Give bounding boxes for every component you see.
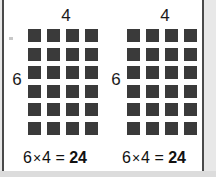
multiplication-sign-icon: × [131,150,141,166]
square-array-right [127,29,197,135]
column-count-label-left: 4 [28,6,104,26]
array-square [165,122,178,135]
equation-left-factor: 6 [122,149,131,166]
equation-right-factor: 4 [42,149,51,166]
array-square [28,122,41,135]
array-square [184,48,197,61]
array-square [146,66,159,79]
array-square [85,103,98,116]
array-square [85,122,98,135]
array-square [127,48,140,61]
equals-sign: = [154,149,163,166]
array-square [85,29,98,42]
square-array-left [28,29,98,135]
equals-sign: = [55,149,64,166]
array-square [127,85,140,98]
equation-right: 6×4 = 24 [107,148,201,168]
array-square [165,103,178,116]
array-square [127,66,140,79]
array-square [47,122,60,135]
array-square [127,103,140,116]
array-square [165,66,178,79]
equation-product: 24 [168,149,186,166]
array-square [165,85,178,98]
array-square [47,85,60,98]
multiplication-group-left: 4 6 [4,0,103,171]
array-square [184,85,197,98]
multiplication-sign-icon: × [32,150,42,166]
array-square [85,85,98,98]
array-square [66,103,79,116]
array-square [66,85,79,98]
worksheet-image: 4 6 [0,0,216,177]
array-square [85,48,98,61]
bottom-gray-strip [0,171,216,177]
row-count-label-left: 6 [8,70,26,90]
array-square [146,85,159,98]
array-square [28,66,41,79]
array-square [66,29,79,42]
array-square [28,48,41,61]
array-square [165,48,178,61]
array-square [127,122,140,135]
array-square [165,29,178,42]
array-square [146,29,159,42]
array-square [66,66,79,79]
equation-left-factor: 6 [23,149,32,166]
column-count-label-right: 4 [127,6,203,26]
row-count-label-right: 6 [107,70,125,90]
array-square [66,48,79,61]
array-square [47,29,60,42]
equation-product: 24 [69,149,87,166]
array-square [28,29,41,42]
array-square [146,122,159,135]
array-square [184,103,197,116]
array-square [47,48,60,61]
array-square [28,103,41,116]
array-square [184,122,197,135]
multiplication-group-right: 4 6 [103,0,203,171]
array-square [146,48,159,61]
array-square [184,66,197,79]
equation-left: 6×4 = 24 [8,148,102,168]
array-square [85,66,98,79]
array-square [47,103,60,116]
array-square [28,85,41,98]
array-square [47,66,60,79]
equation-right-factor: 4 [141,149,150,166]
array-square [184,29,197,42]
array-square [66,122,79,135]
array-square [127,29,140,42]
array-square [146,103,159,116]
